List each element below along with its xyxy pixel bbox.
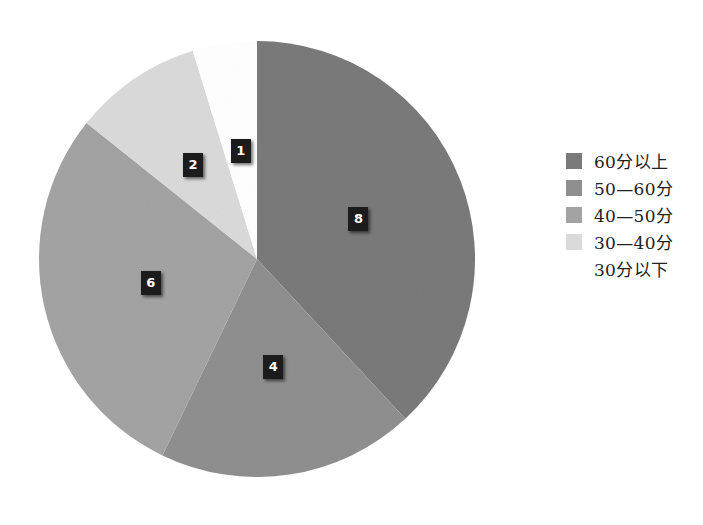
legend-item: 60分以上 — [566, 147, 673, 174]
legend-label: 30—40分 — [594, 229, 673, 254]
data-label: 1 — [231, 139, 251, 163]
legend-item: 30—40分 — [566, 228, 673, 255]
legend-label: 60分以上 — [594, 148, 668, 173]
data-label: 6 — [141, 271, 161, 295]
pie-chart: 84621 60分以上50—60分40—50分30—40分30分以下 — [0, 0, 703, 525]
legend-label: 30分以下 — [594, 256, 668, 281]
legend-swatch — [566, 180, 582, 196]
legend-swatch — [566, 234, 582, 250]
legend-label: 50—60分 — [594, 175, 673, 200]
legend-label: 40—50分 — [594, 202, 673, 227]
legend-item: 40—50分 — [566, 201, 673, 228]
legend-item: 30分以下 — [566, 255, 673, 282]
legend-swatch — [566, 261, 582, 277]
data-label: 4 — [263, 355, 283, 379]
legend-swatch — [566, 207, 582, 223]
legend: 60分以上50—60分40—50分30—40分30分以下 — [566, 147, 673, 282]
data-label: 2 — [183, 153, 203, 177]
legend-swatch — [566, 153, 582, 169]
data-label: 8 — [348, 207, 368, 231]
legend-item: 50—60分 — [566, 174, 673, 201]
